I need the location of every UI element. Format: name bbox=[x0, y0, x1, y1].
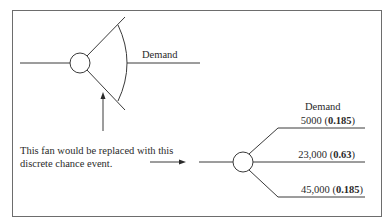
annotation-line-1: This fan would be replaced with this bbox=[20, 144, 173, 157]
branch-label-lower: 45,000 (0.185) bbox=[301, 183, 363, 196]
right-arrow-head bbox=[179, 160, 186, 165]
branch-value: 45,000 bbox=[301, 184, 330, 195]
fan-upper-edge bbox=[87, 17, 125, 56]
branch-label-upper: 5000 (0.185) bbox=[301, 114, 355, 127]
right-chance-node bbox=[233, 152, 253, 172]
annotation-line-2: discrete chance event. bbox=[20, 157, 112, 170]
branch-probability: 0.185 bbox=[328, 115, 352, 126]
up-arrow-head bbox=[101, 92, 106, 99]
branch-probability: 0.185 bbox=[336, 184, 360, 195]
fan-lower-edge bbox=[87, 70, 125, 110]
branch-value: 23,000 bbox=[298, 149, 327, 160]
branch-label-middle: 23,000 (0.63) bbox=[298, 148, 355, 161]
discrete-demand-header: Demand bbox=[305, 100, 341, 113]
branch-probability: 0.63 bbox=[333, 149, 351, 160]
fan-demand-label: Demand bbox=[142, 48, 178, 61]
fan-arc bbox=[118, 25, 127, 101]
branch-value: 5000 bbox=[301, 115, 322, 126]
